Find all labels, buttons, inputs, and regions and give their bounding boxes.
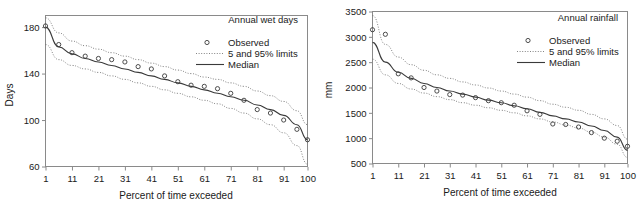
observed-point [551, 122, 555, 126]
y-tick-label: 60 [29, 161, 40, 172]
legend-title-left: Annual wet days [228, 14, 298, 25]
legend-marker-observed-icon [526, 38, 530, 42]
observed-point [83, 54, 87, 58]
limit-curve-5-limit [46, 45, 308, 165]
legend-right: Annual rainfall Observed 5 and 95% limit… [517, 12, 619, 68]
observed-point [383, 32, 387, 36]
x-axis-tick-labels-right: 1112131415161718191100 [370, 170, 636, 181]
x-axis-ticks-right [373, 164, 628, 168]
legend-label-median: Median [228, 59, 259, 70]
chart-svg-left: 60100140180 1112131415161718191100 Days … [0, 0, 318, 206]
x-tick-label: 1 [370, 170, 375, 181]
observed-point [576, 125, 580, 129]
observed-point [295, 127, 299, 131]
legend-label-observed: Observed [228, 37, 269, 48]
x-tick-label: 51 [173, 173, 184, 184]
y-tick-label: 3000 [345, 32, 366, 43]
observed-point [435, 89, 439, 93]
x-axis-title-left: Percent of time exceeded [119, 190, 232, 201]
median-curve [373, 42, 628, 150]
observed-point [282, 118, 286, 122]
legend-title-right: Annual rainfall [558, 12, 618, 23]
x-tick-label: 1 [43, 173, 48, 184]
observed-point [96, 56, 100, 60]
y-tick-label: 3500 [345, 6, 366, 17]
limit-curve-95-limit [46, 18, 308, 125]
y-axis-title-right: mm [323, 82, 334, 99]
legend-label-observed: Observed [549, 35, 590, 46]
x-axis-ticks-left [46, 167, 308, 171]
observed-point [202, 84, 206, 88]
y-axis-tick-labels-right: 500100015002000250030003500 [345, 6, 366, 169]
observed-point [255, 107, 259, 111]
y-tick-label: 2500 [345, 57, 366, 68]
x-tick-label: 61 [199, 173, 210, 184]
x-tick-label: 21 [94, 173, 105, 184]
y-tick-label: 2000 [345, 82, 366, 93]
y-axis-tick-labels-left: 60100140180 [24, 22, 40, 172]
x-axis-title-right: Percent of time exceeded [443, 187, 556, 198]
observed-point [149, 67, 153, 71]
y-axis-title-left: Days [4, 84, 15, 107]
figure-container: 60100140180 1112131415161718191100 Days … [0, 0, 640, 206]
y-tick-label: 1500 [345, 108, 366, 119]
chart-panel-annual-rainfall: 500100015002000250030003500 111213141516… [318, 0, 640, 206]
x-axis-tick-labels-left: 1112131415161718191100 [43, 173, 316, 184]
y-tick-label: 140 [24, 68, 40, 79]
x-tick-label: 100 [620, 170, 636, 181]
observed-point [268, 111, 272, 115]
chart-svg-right: 500100015002000250030003500 111213141516… [318, 0, 640, 206]
legend-label-limits: 5 and 95% limits [549, 46, 619, 57]
chart-panel-annual-wet-days: 60100140180 1112131415161718191100 Days … [0, 0, 318, 206]
observed-point [615, 139, 619, 143]
x-tick-label: 11 [394, 170, 404, 181]
observed-point [525, 109, 529, 113]
observed-point [229, 91, 233, 95]
limit-curve-5-limit [373, 59, 628, 157]
observed-point [123, 60, 127, 64]
x-tick-label: 71 [548, 170, 559, 181]
legend-left: Annual wet days Observed 5 and 95% limit… [196, 14, 298, 70]
x-tick-label: 31 [120, 173, 131, 184]
plot-series-left [43, 18, 309, 164]
legend-marker-observed-icon [205, 40, 209, 44]
observed-point [110, 58, 114, 62]
x-tick-label: 31 [445, 170, 456, 181]
observed-point [448, 92, 452, 96]
x-tick-label: 61 [522, 170, 533, 181]
observed-point [57, 42, 61, 46]
x-tick-label: 71 [226, 173, 237, 184]
x-tick-label: 91 [279, 173, 290, 184]
y-tick-label: 1000 [345, 133, 366, 144]
x-tick-label: 100 [300, 173, 316, 184]
observed-point [162, 74, 166, 78]
x-tick-label: 51 [496, 170, 507, 181]
observed-point [136, 65, 140, 69]
plot-series-right [370, 16, 629, 158]
observed-point [602, 136, 606, 140]
x-tick-label: 21 [419, 170, 430, 181]
y-tick-label: 180 [24, 22, 40, 33]
x-tick-label: 91 [600, 170, 611, 181]
x-tick-label: 11 [68, 173, 78, 184]
x-tick-label: 81 [252, 173, 263, 184]
legend-label-median: Median [549, 57, 580, 68]
x-tick-label: 81 [574, 170, 585, 181]
y-tick-label: 100 [24, 115, 40, 126]
observed-point [564, 122, 568, 126]
y-tick-label: 500 [351, 158, 367, 169]
legend-label-limits: 5 and 95% limits [228, 48, 298, 59]
observed-point [422, 85, 426, 89]
observed-point [215, 87, 219, 91]
x-tick-label: 41 [147, 173, 158, 184]
x-tick-label: 41 [471, 170, 482, 181]
